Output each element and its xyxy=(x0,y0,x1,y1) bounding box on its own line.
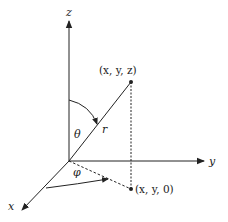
point-xy0-label: (x, y, 0) xyxy=(135,183,174,195)
spherical-coordinates-diagram: z y x r θ φ (x, y, z) (x, y, 0) xyxy=(0,0,228,222)
z-axis-label: z xyxy=(65,6,72,19)
x-axis-label: x xyxy=(8,200,15,213)
point-xy0 xyxy=(129,187,133,191)
y-axis-label: y xyxy=(208,155,216,168)
point-xyz xyxy=(129,80,133,84)
phi-label: φ xyxy=(73,166,81,179)
theta-arc xyxy=(69,100,97,124)
radius-label: r xyxy=(102,123,108,136)
phi-arc xyxy=(46,179,108,188)
point-xyz-label: (x, y, z) xyxy=(99,64,137,76)
radius-vector xyxy=(69,82,131,161)
theta-label: θ xyxy=(74,128,81,141)
